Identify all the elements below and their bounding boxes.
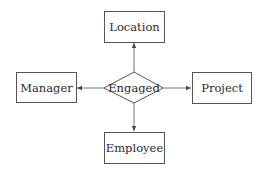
- entity-location-label: Location: [109, 20, 160, 34]
- relationship-engaged[interactable]: Engaged: [104, 72, 163, 103]
- entity-employee-label: Employee: [106, 141, 164, 155]
- entity-project-label: Project: [201, 81, 243, 95]
- relationship-engaged-label: Engaged: [108, 81, 160, 95]
- er-diagram: Location Manager Project Employee Engage…: [0, 0, 263, 172]
- entity-manager-label: Manager: [20, 81, 73, 95]
- entity-location[interactable]: Location: [105, 12, 165, 43]
- entity-manager[interactable]: Manager: [17, 73, 77, 103]
- entity-project[interactable]: Project: [193, 73, 252, 104]
- entity-employee[interactable]: Employee: [105, 133, 165, 164]
